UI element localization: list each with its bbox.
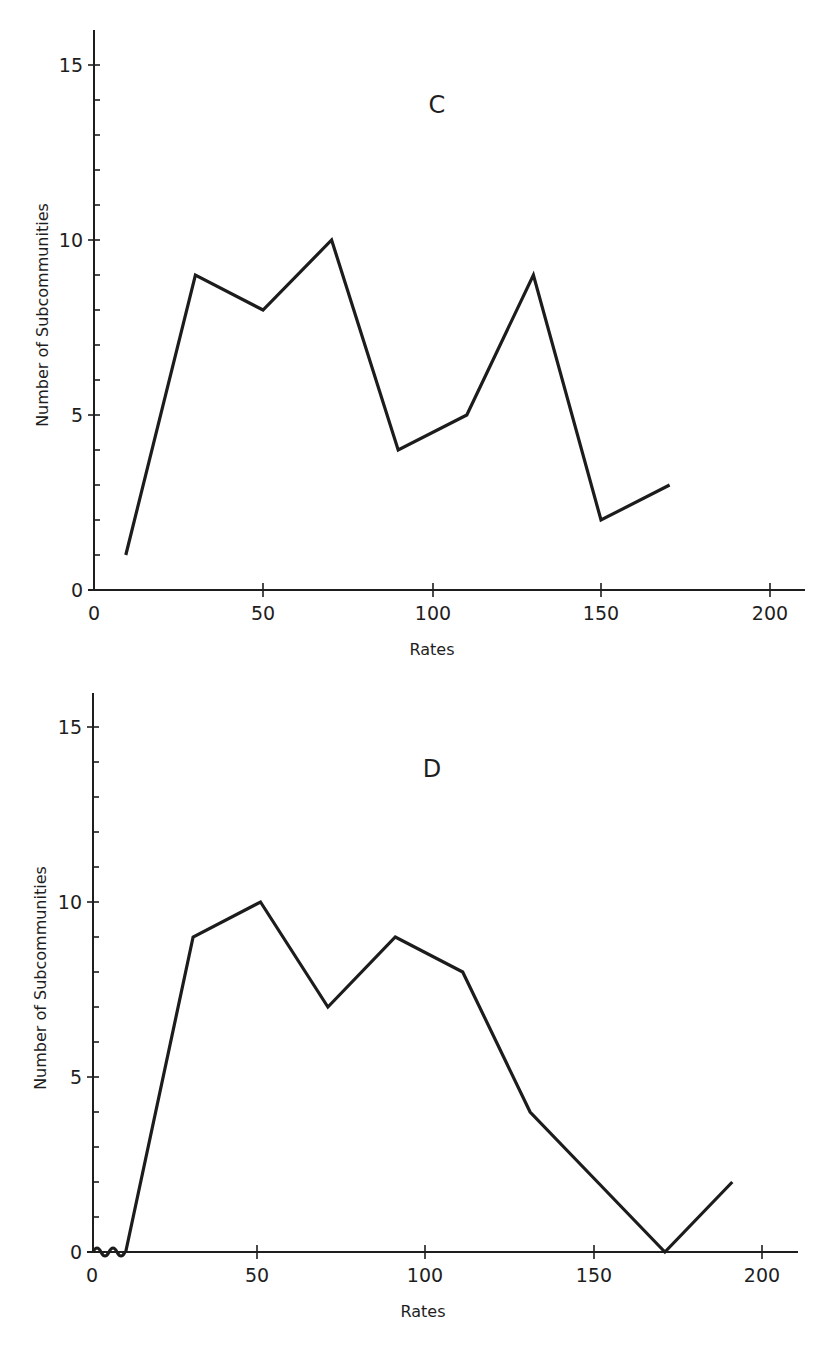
x-tick-label-50: 50 bbox=[245, 1264, 269, 1286]
x-tick-label-150: 150 bbox=[576, 1264, 612, 1286]
x-tick-label-100: 100 bbox=[415, 602, 451, 624]
x-axis-label-c: Rates bbox=[409, 640, 454, 659]
x-tick-label-200: 200 bbox=[744, 1264, 780, 1286]
y-tick-label-10: 10 bbox=[59, 229, 83, 251]
panel-label-c: C bbox=[429, 91, 446, 119]
y-axis-label-c: Number of Subcommunities bbox=[33, 203, 52, 427]
series-line-d bbox=[126, 902, 733, 1252]
x-tick-label-0: 0 bbox=[88, 602, 100, 624]
chart-d: D 15 10 5 0 bbox=[31, 693, 798, 1321]
x-tick-label-150: 150 bbox=[583, 602, 619, 624]
y-axis-label-d: Number of Subcommunities bbox=[31, 866, 50, 1090]
y-tick-label-10: 10 bbox=[58, 891, 82, 913]
panel-label-d: D bbox=[423, 755, 441, 783]
y-tick-label-0: 0 bbox=[70, 1241, 82, 1263]
series-line-c bbox=[126, 240, 670, 555]
y-tick-label-15: 15 bbox=[59, 54, 83, 76]
y-tick-label-5: 5 bbox=[71, 404, 83, 426]
y-tick-label-0: 0 bbox=[71, 579, 83, 601]
y-tick-label-5: 5 bbox=[70, 1066, 82, 1088]
figure: C 15 10 5 0 bbox=[0, 0, 829, 1349]
y-tick-label-15: 15 bbox=[58, 716, 82, 738]
x-tick-label-50: 50 bbox=[251, 602, 275, 624]
chart-c: C 15 10 5 0 bbox=[33, 30, 805, 659]
x-tick-label-200: 200 bbox=[752, 602, 788, 624]
x-axis-label-d: Rates bbox=[400, 1302, 445, 1321]
x-tick-label-0: 0 bbox=[86, 1264, 98, 1286]
x-tick-label-100: 100 bbox=[407, 1264, 443, 1286]
